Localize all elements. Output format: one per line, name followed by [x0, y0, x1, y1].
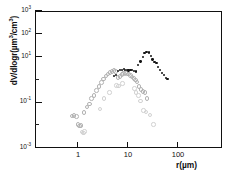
x-tick	[127, 142, 128, 148]
x-tick	[77, 142, 78, 148]
y-tick	[35, 147, 42, 148]
y-tick-label: 101	[5, 53, 31, 60]
y-tick-label: 103	[5, 7, 31, 14]
x-tick-label: 1	[76, 151, 80, 159]
y-tick	[35, 56, 42, 57]
x-tick-label: 10	[124, 151, 132, 159]
x-axis-title: r(µm)	[176, 160, 197, 170]
plot-frame	[35, 11, 222, 148]
x-tick-label: 100	[172, 151, 185, 159]
y-tick	[35, 33, 42, 34]
chart-figure: dV/dlogr(µm3/cm3) r(µm) 10-310-110110210…	[0, 0, 234, 177]
y-tick-label: 102	[5, 30, 31, 37]
y-tick	[35, 79, 39, 80]
y-tick	[35, 124, 39, 125]
y-tick	[35, 10, 42, 11]
y-tick-label: 10-1	[5, 98, 31, 105]
y-tick-label: 10-3	[5, 144, 31, 151]
y-tick	[35, 102, 42, 103]
x-tick	[177, 142, 178, 148]
